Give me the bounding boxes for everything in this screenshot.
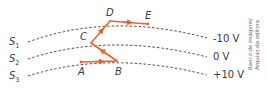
svg-text:Arquivo da editora: Arquivo da editora xyxy=(254,20,261,70)
image-credit: Banco de imagens/ Arquivo da editora xyxy=(247,18,261,70)
point-c-label: C xyxy=(80,31,87,42)
point-d-label: D xyxy=(106,7,114,18)
surface-s3-label: S3 xyxy=(9,70,20,84)
point-a-dot xyxy=(80,61,83,64)
potential-s2-label: 0 V xyxy=(213,51,230,62)
potential-s3-label: +10 V xyxy=(213,69,244,80)
equipotential-diagram: S1 S2 S3 -10 V 0 V +10 V A B C D E Banco… xyxy=(0,0,267,90)
surface-s2-curve xyxy=(28,45,207,59)
point-b-label: B xyxy=(115,66,122,77)
surface-s1-label: S1 xyxy=(9,36,20,50)
potential-s1-label: -10 V xyxy=(213,33,240,44)
point-a-label: A xyxy=(77,66,85,77)
point-e-dot xyxy=(147,23,150,26)
surface-s2-label: S2 xyxy=(9,53,20,67)
point-e-label: E xyxy=(145,10,152,21)
surface-s1-curve xyxy=(28,26,207,42)
